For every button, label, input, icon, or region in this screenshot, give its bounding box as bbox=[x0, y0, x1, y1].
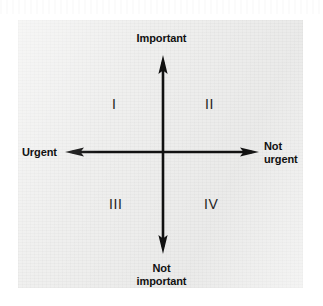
arrowhead-right bbox=[240, 147, 259, 156]
axis-label-urgent: Urgent bbox=[22, 146, 57, 159]
arrowhead-up bbox=[158, 55, 167, 74]
arrowhead-down bbox=[158, 235, 167, 254]
axis-label-not-urgent-line1: Not bbox=[264, 140, 282, 152]
scan-bleed-artifact bbox=[0, 0, 323, 14]
figure-panel bbox=[18, 20, 303, 288]
quadrant-numeral-iii: III bbox=[109, 197, 122, 212]
axis-label-not-urgent-line2: urgent bbox=[264, 153, 298, 165]
axis-label-not-important-line2: important bbox=[137, 275, 187, 287]
quadrant-numeral-i: I bbox=[112, 97, 117, 112]
axis-label-important: Important bbox=[0, 32, 323, 45]
axis-label-not-important-line1: Not bbox=[152, 262, 170, 274]
axis-label-not-urgent: Not urgent bbox=[264, 140, 298, 165]
page-background: Important Urgent Not urgent Not importan… bbox=[0, 0, 323, 306]
arrowhead-left bbox=[65, 147, 84, 156]
quadrant-numeral-ii: II bbox=[205, 97, 214, 112]
quadrant-numeral-iv: IV bbox=[204, 197, 218, 212]
axis-label-not-important: Not important bbox=[0, 262, 323, 287]
